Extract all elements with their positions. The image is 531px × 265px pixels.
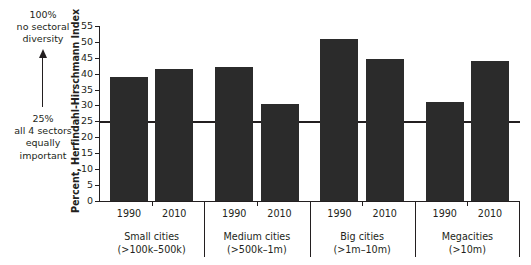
x-tick-label-year: 1990: [327, 209, 351, 219]
y-tick-mark: [95, 185, 99, 186]
y-tick-label: 40: [81, 69, 93, 79]
y-tick-mark: [95, 42, 99, 43]
x-tick-label-year: 1990: [117, 209, 141, 219]
x-minor-tick: [362, 201, 363, 206]
y-tick-label: 25: [81, 117, 93, 127]
up-arrow-icon: [42, 49, 43, 107]
y-tick-label: 35: [81, 85, 93, 95]
x-group-label: Small cities(>100k–500k): [118, 231, 186, 256]
y-tick-label: 50: [81, 37, 93, 47]
y-tick-mark: [95, 169, 99, 170]
group-divider: [310, 201, 311, 257]
y-tick-label: 45: [81, 53, 93, 63]
x-group-name: Megacities: [442, 231, 493, 244]
x-group-range: (>10m): [442, 244, 493, 257]
x-group-name: Big cities: [333, 231, 390, 244]
x-tick-label-year: 2010: [267, 209, 291, 219]
y-tick-mark: [95, 90, 99, 91]
y-tick-label: 0: [87, 196, 93, 206]
y-tick-label: 10: [81, 164, 93, 174]
y-tick-label: 20: [81, 132, 93, 142]
x-tick-label-year: 2010: [162, 209, 186, 219]
y-tick-label: 5: [87, 180, 93, 190]
x-minor-tick: [152, 201, 153, 206]
x-tick-label-year: 2010: [373, 209, 397, 219]
x-group-label: Medium cities(>500k–1m): [224, 231, 291, 256]
bar: [110, 77, 148, 201]
y-tick-mark: [95, 153, 99, 154]
y-tick-mark: [95, 105, 99, 106]
x-group-range: (>100k–500k): [118, 244, 186, 257]
x-tick-label-year: 1990: [222, 209, 246, 219]
x-group-range: (>1m–10m): [333, 244, 390, 257]
y-axis-line: [99, 26, 100, 202]
y-tick-label: 15: [81, 148, 93, 158]
y-tick-mark: [95, 74, 99, 75]
bar: [215, 67, 253, 200]
x-group-name: Medium cities: [224, 231, 291, 244]
x-group-name: Small cities: [118, 231, 186, 244]
bar: [426, 102, 464, 201]
bar: [320, 39, 358, 201]
bar: [471, 61, 509, 201]
y-tick-label: 55: [81, 21, 93, 31]
bar: [261, 104, 299, 201]
chart-plot-area: 0510152025303540455055: [99, 26, 520, 202]
y-tick-mark: [95, 201, 99, 202]
group-divider: [204, 201, 205, 257]
x-tick-label-year: 1990: [433, 209, 457, 219]
y-tick-mark: [95, 58, 99, 59]
x-group-label: Big cities(>1m–10m): [333, 231, 390, 256]
x-minor-tick: [467, 201, 468, 206]
y-tick-mark: [95, 26, 99, 27]
x-tick-label-year: 2010: [478, 209, 502, 219]
y-tick-label: 30: [81, 101, 93, 111]
group-divider-end: [519, 201, 520, 257]
bar: [155, 69, 193, 201]
x-group-label: Megacities(>10m): [442, 231, 493, 256]
y-tick-mark: [95, 137, 99, 138]
bar: [366, 59, 404, 200]
x-minor-tick: [257, 201, 258, 206]
group-divider: [415, 201, 416, 257]
x-group-range: (>500k–1m): [224, 244, 291, 257]
